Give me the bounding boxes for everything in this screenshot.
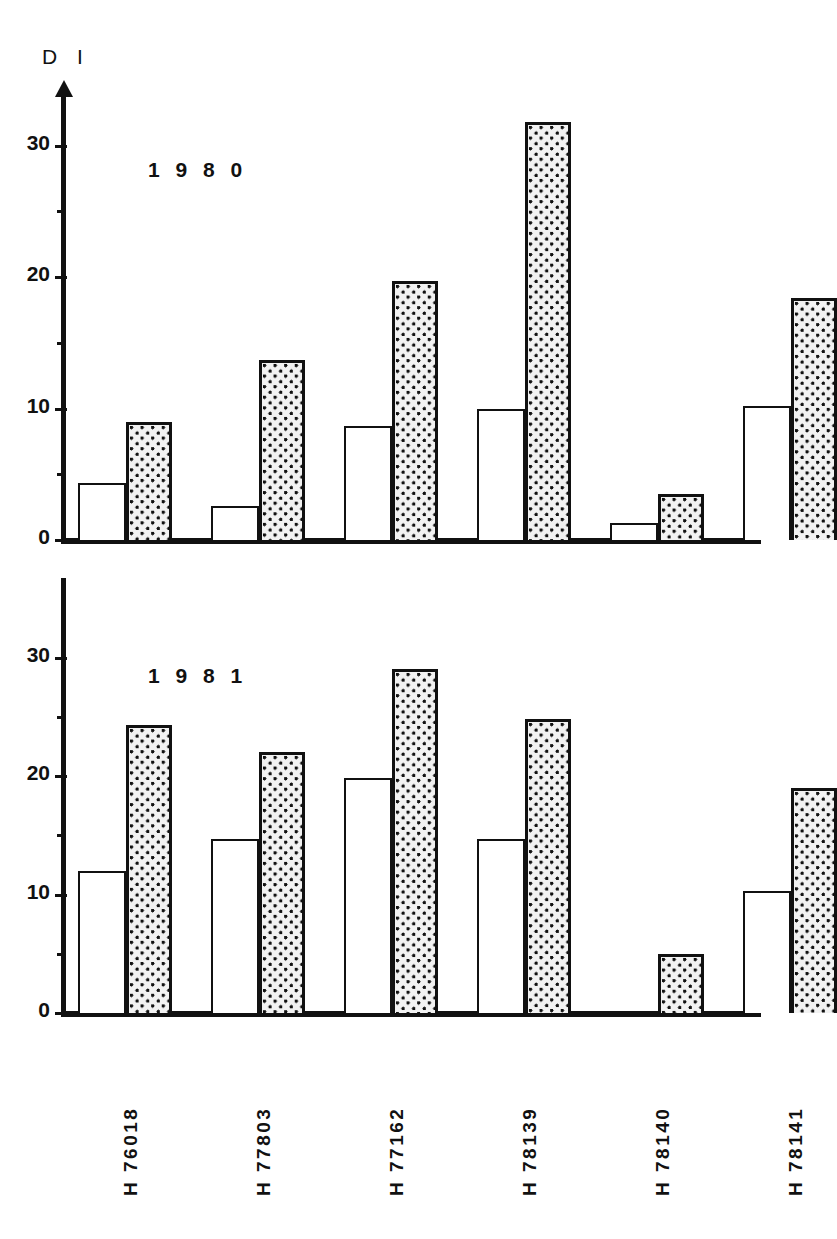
bar-shaded [392,669,438,1013]
y-tick-minor [57,716,66,719]
x-category-label: H 76018 [120,1107,142,1196]
bar-open [477,839,525,1013]
x-category-label: H 77803 [253,1107,275,1196]
bar-open [344,778,392,1013]
bar-shaded [525,719,571,1013]
y-tick-major [55,657,67,660]
y-tick-label: 30 [4,643,50,667]
y-tick-label: 10 [4,880,50,904]
y-tick-label: 0 [4,998,50,1022]
x-category-label: H 78139 [519,1107,541,1196]
x-category-label: H 78140 [652,1107,674,1196]
x-category-label: H 77162 [386,1107,408,1196]
y-tick-major [55,1012,67,1015]
bar-shaded [259,752,305,1013]
bar-shaded [658,954,704,1013]
y-tick-major [55,894,67,897]
bar-shaded [791,298,837,540]
bar-open [743,891,791,1013]
y-axis-line [61,578,66,1014]
y-tick-major [55,775,67,778]
bar-shaded [791,788,837,1013]
y-tick-minor [57,834,66,837]
x-category-label: H 78141 [785,1107,807,1196]
panel-year-label-1981: 1 9 8 1 [148,664,247,688]
chart-panel-1981: 1 9 8 1 0102030 [0,0,785,1040]
bar-open [211,839,259,1013]
bar-open [78,871,126,1013]
y-tick-label: 20 [4,761,50,785]
bar-shaded [126,725,172,1013]
y-tick-minor [57,953,66,956]
